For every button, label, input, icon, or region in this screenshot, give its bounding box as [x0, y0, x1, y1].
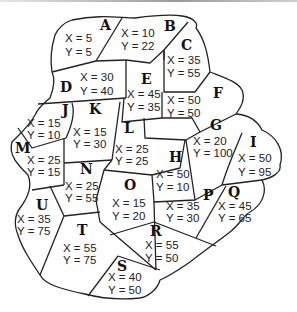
region-d-x: X = 30: [80, 71, 114, 83]
region-a[interactable]: A X = 5 Y = 5: [65, 17, 112, 58]
region-g-y: Y = 100: [193, 147, 233, 159]
region-h-x: X = 50: [156, 168, 190, 180]
region-labels: A X = 5 Y = 5 B X = 10 Y = 22 C X = 35 Y…: [15, 17, 272, 296]
region-b-x: X = 10: [121, 27, 155, 39]
region-r-label: R: [150, 223, 162, 239]
region-f-label: F: [213, 85, 223, 101]
region-f-x: X = 50: [167, 94, 201, 106]
region-d-y: Y = 40: [80, 85, 113, 97]
region-i[interactable]: I X = 50 Y = 95: [238, 134, 272, 178]
region-f[interactable]: F X = 50 Y = 50: [167, 85, 223, 119]
region-k-label: K: [89, 101, 102, 117]
region-g-x: X = 20: [193, 135, 227, 147]
region-l-label: L: [124, 120, 134, 136]
region-u-x: X = 35: [17, 213, 51, 225]
region-c-x: X = 35: [167, 54, 201, 66]
region-o-x: X = 15: [112, 197, 146, 209]
region-c-y: Y = 55: [167, 67, 200, 79]
region-u-y: Y = 75: [17, 225, 50, 237]
region-s-x: X = 40: [108, 271, 142, 283]
region-k-x: X = 15: [73, 126, 107, 138]
region-b-y: Y = 22: [121, 40, 154, 52]
region-s-y: Y = 50: [108, 284, 141, 296]
region-e-y: Y = 35: [127, 101, 160, 113]
region-map: A X = 5 Y = 5 B X = 10 Y = 22 C X = 35 Y…: [0, 0, 297, 312]
region-i-x: X = 50: [238, 152, 272, 164]
region-u-label: U: [36, 197, 48, 213]
region-p-label: P: [203, 187, 214, 203]
region-m-x: X = 25: [27, 154, 61, 166]
region-h[interactable]: H X = 50 Y = 10: [156, 149, 190, 193]
region-c-label: C: [181, 37, 192, 53]
region-i-label: I: [250, 134, 257, 150]
region-c[interactable]: C X = 35 Y = 55: [167, 37, 201, 79]
region-g[interactable]: G X = 20 Y = 100: [193, 117, 233, 159]
region-t-x: X = 55: [63, 242, 97, 254]
region-e-x: X = 45: [127, 88, 161, 100]
region-d-label: D: [60, 79, 72, 95]
region-q-x: X = 45: [218, 200, 252, 212]
region-t[interactable]: T X = 55 Y = 75: [63, 222, 97, 266]
region-o-label: O: [124, 177, 136, 193]
region-n-x: X = 25: [65, 180, 99, 192]
region-n[interactable]: N X = 25 Y = 55: [65, 161, 99, 204]
region-k-y: Y = 30: [73, 138, 106, 150]
region-q-label: Q: [228, 184, 240, 200]
region-a-y: Y = 5: [65, 46, 92, 58]
region-g-label: G: [210, 117, 222, 133]
region-j[interactable]: J X = 15 Y = 10: [27, 102, 69, 141]
region-a-label: A: [99, 17, 112, 33]
region-l-y: Y = 25: [115, 155, 148, 167]
region-k[interactable]: K X = 15 Y = 30: [73, 101, 107, 150]
region-l-x: X = 25: [115, 143, 149, 155]
region-b-label: B: [164, 18, 176, 34]
region-o[interactable]: O X = 15 Y = 20: [112, 177, 146, 222]
region-t-label: T: [77, 222, 88, 238]
region-j-label: J: [60, 102, 69, 118]
region-r-x: X = 55: [145, 239, 179, 251]
region-q-y: Y = 65: [218, 212, 251, 224]
region-n-label: N: [80, 161, 93, 177]
region-o-y: Y = 20: [112, 210, 145, 222]
region-h-label: H: [169, 149, 182, 165]
region-h-y: Y = 10: [156, 181, 189, 193]
region-l[interactable]: L X = 25 Y = 25: [115, 120, 149, 167]
region-t-y: Y = 75: [63, 254, 96, 266]
region-a-x: X = 5: [65, 32, 92, 44]
region-j-y: Y = 10: [27, 129, 60, 141]
region-m-y: Y = 15: [27, 166, 60, 178]
region-e-label: E: [141, 71, 152, 87]
region-u[interactable]: U X = 35 Y = 75: [17, 197, 51, 237]
region-p-x: X = 35: [166, 200, 200, 212]
region-r-y: Y = 50: [145, 252, 178, 264]
region-b[interactable]: B X = 10 Y = 22: [121, 18, 176, 52]
region-d[interactable]: D X = 30 Y = 40: [60, 71, 114, 97]
region-f-y: Y = 50: [167, 107, 200, 119]
region-n-y: Y = 55: [65, 192, 98, 204]
region-e[interactable]: E X = 45 Y = 35: [127, 71, 161, 113]
region-i-y: Y = 95: [238, 166, 271, 178]
region-p-y: Y = 30: [166, 212, 199, 224]
region-j-x: X = 15: [27, 117, 61, 129]
